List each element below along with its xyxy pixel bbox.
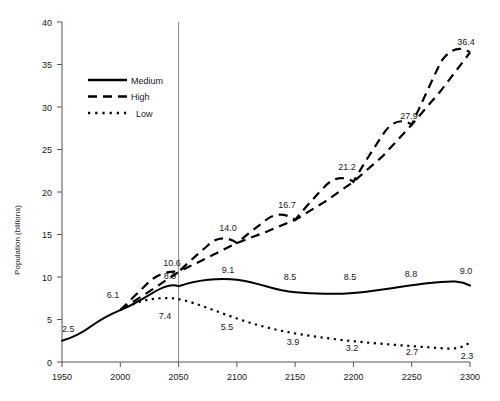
population-projection-chart: 0 5 10 15 20 25 30 35 40 Population (bil… [0, 0, 500, 401]
y-axis-title: Population (billions) [13, 205, 22, 275]
data-labels-medium: 2.5 6.1 8.9 9.1 8.5 8.5 8.8 9.0 [62, 265, 472, 334]
y-tick-label-15: 15 [42, 230, 52, 240]
data-label-low-2300: 2.3 [461, 351, 474, 361]
x-tick-label-2250: 2250 [402, 372, 422, 382]
y-tick-label-5: 5 [47, 315, 52, 325]
data-label-low-2275: 2.7 [406, 347, 419, 357]
y-tick-label-40: 40 [42, 18, 52, 28]
y-tick-label-30: 30 [42, 103, 52, 113]
legend-item-medium[interactable]: Medium [88, 76, 163, 86]
data-label-high-2100: 14.0 [219, 223, 237, 233]
x-tick-label-2200: 2200 [343, 372, 363, 382]
data-label-high-2250: 27.9 [400, 111, 418, 121]
data-label-low-2250: 3.2 [346, 343, 359, 353]
x-tick-label-2150: 2150 [285, 372, 305, 382]
chart-legend: Medium High Low [88, 76, 163, 119]
x-tick-label-2050: 2050 [169, 372, 189, 382]
data-label-medium-2150: 8.5 [284, 272, 297, 282]
data-label-medium-2050: 8.9 [164, 271, 177, 281]
data-label-high-2150: 16.7 [278, 200, 296, 210]
y-axis-ticks [57, 22, 62, 362]
y-tick-label-0: 0 [47, 358, 52, 368]
data-label-medium-2000: 6.1 [107, 290, 120, 300]
x-axis-ticks [62, 362, 470, 367]
legend-label-high: High [131, 92, 150, 102]
series-line-medium [62, 279, 470, 341]
x-tick-label-1950: 1950 [52, 372, 72, 382]
x-tick-label-2100: 2100 [227, 372, 247, 382]
y-tick-label-10: 10 [42, 273, 52, 283]
x-tick-label-2300: 2300 [460, 372, 480, 382]
y-tick-label-35: 35 [42, 60, 52, 70]
x-tick-label-2000: 2000 [110, 372, 130, 382]
data-label-low-2125: 5.5 [221, 322, 234, 332]
y-tick-label-20: 20 [42, 188, 52, 198]
chart-canvas: 0 5 10 15 20 25 30 35 40 Population (bil… [0, 0, 500, 401]
legend-label-medium: Medium [131, 76, 163, 86]
data-label-high-2050: 10.6 [163, 258, 181, 268]
data-labels-high: 10.6 14.0 16.7 21.2 27.9 36.4 [163, 37, 475, 268]
data-label-medium-2300: 9.0 [460, 266, 473, 276]
y-tick-label-25: 25 [42, 145, 52, 155]
data-label-low-2200: 3.9 [287, 337, 300, 347]
data-label-high-2300: 36.4 [457, 37, 475, 47]
data-label-medium-2250: 8.8 [405, 269, 418, 279]
data-label-medium-2100: 9.1 [222, 265, 235, 275]
legend-label-low: Low [136, 109, 153, 119]
data-label-low-2050: 7.4 [159, 311, 172, 321]
legend-item-high[interactable]: High [88, 92, 150, 102]
data-label-medium-1950: 2.5 [62, 324, 75, 334]
data-label-medium-2200: 8.5 [344, 272, 357, 282]
data-label-high-2200: 21.2 [338, 162, 356, 172]
legend-item-low[interactable]: Low [88, 109, 153, 119]
